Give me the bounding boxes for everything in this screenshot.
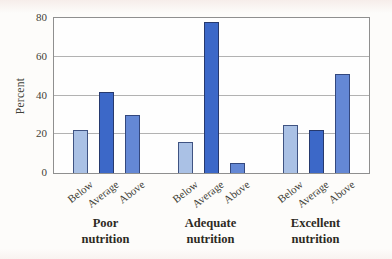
bar-adequate-nutrition-below — [178, 142, 193, 173]
group-label-excellent-nutrition: Excellentnutrition — [261, 216, 371, 247]
group-label-line: Excellent — [261, 216, 371, 232]
group-label-line: Poor — [51, 216, 161, 232]
x-tick-excellent-nutrition-above: Above — [326, 178, 356, 206]
bar-adequate-nutrition-average — [204, 22, 219, 173]
plot-area — [53, 17, 370, 174]
bar-poor-nutrition-below — [73, 130, 88, 173]
bar-adequate-nutrition-above — [230, 163, 245, 173]
group-label-poor-nutrition: Poornutrition — [51, 216, 161, 247]
bar-excellent-nutrition-average — [309, 130, 324, 173]
x-tick-poor-nutrition-above: Above — [116, 178, 146, 206]
x-tick-adequate-nutrition-above: Above — [221, 178, 251, 206]
group-label-line: Adequate — [156, 216, 266, 232]
y-tick-60: 60 — [17, 50, 47, 62]
group-label-line: nutrition — [51, 232, 161, 248]
y-tick-40: 40 — [17, 89, 47, 101]
y-tick-80: 80 — [17, 11, 47, 23]
bar-excellent-nutrition-above — [335, 74, 350, 173]
bar-chart: Percent 020406080BelowAverageAbovePoornu… — [0, 0, 392, 259]
bar-excellent-nutrition-below — [283, 125, 298, 173]
group-label-line: nutrition — [156, 232, 266, 248]
bar-poor-nutrition-above — [125, 115, 140, 173]
group-label-adequate-nutrition: Adequatenutrition — [156, 216, 266, 247]
group-label-line: nutrition — [261, 232, 371, 248]
bar-poor-nutrition-average — [99, 92, 114, 173]
y-tick-0: 0 — [17, 166, 47, 178]
y-tick-20: 20 — [17, 127, 47, 139]
